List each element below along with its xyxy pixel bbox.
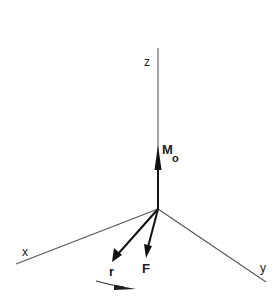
force-arrowhead-icon [144,244,152,258]
rotation-arrow [96,281,136,290]
x-axis-label: x [22,245,28,259]
moment-diagram: z x y M o r F [0,0,280,306]
x-axis [16,209,158,264]
position-label: r [109,264,114,279]
moment-arrowhead-icon [155,145,162,170]
moment-subscript: o [172,152,179,164]
z-axis-label: z [144,55,150,69]
rotation-arrowhead-icon [114,285,136,290]
y-axis-label: y [260,261,266,275]
force-label: F [142,261,150,276]
y-axis [158,209,266,282]
moment-vector [155,145,162,209]
